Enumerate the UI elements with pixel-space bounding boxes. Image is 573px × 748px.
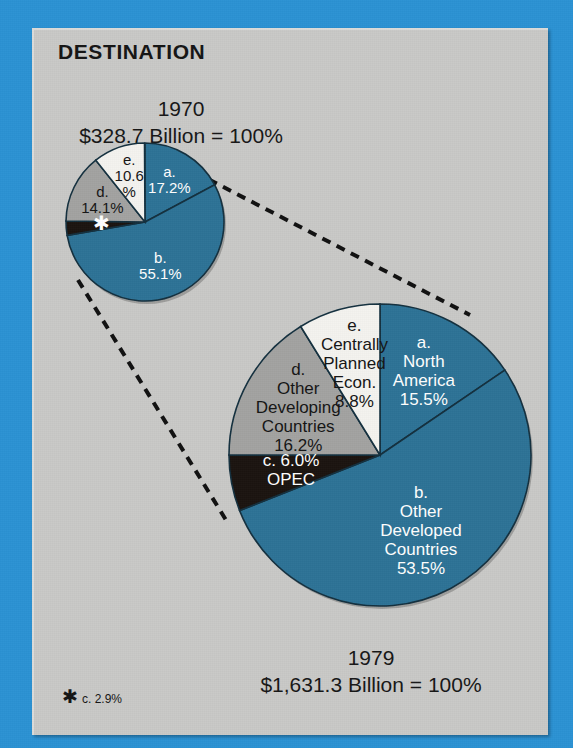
lower-connector: [78, 280, 226, 520]
footnote-text: c. 2.9%: [82, 692, 122, 706]
footnote: ✱ c. 2.9%: [62, 687, 122, 706]
caption-1979-year: 1979: [196, 645, 546, 672]
asterisk-icon: ✱: [62, 687, 78, 706]
chart-figure: DESTINATION 1970 $328.7 Billion = 100% a…: [0, 0, 573, 748]
pie-1970: a.17.2%b.55.1%✱d.14.1%e.10.6%: [66, 143, 226, 304]
caption-1979: 1979 $1,631.3 Billion = 100%: [196, 645, 546, 699]
pie-slice-label-c: c. 6.0%OPEC: [263, 452, 320, 490]
pie-chart-layer: a.17.2%b.55.1%✱d.14.1%e.10.6%a.NorthAmer…: [0, 0, 573, 748]
caption-1979-amount: $1,631.3 Billion = 100%: [260, 673, 481, 696]
pie-1979: a.NorthAmerica15.5%b.OtherDevelopedCount…: [229, 304, 533, 609]
